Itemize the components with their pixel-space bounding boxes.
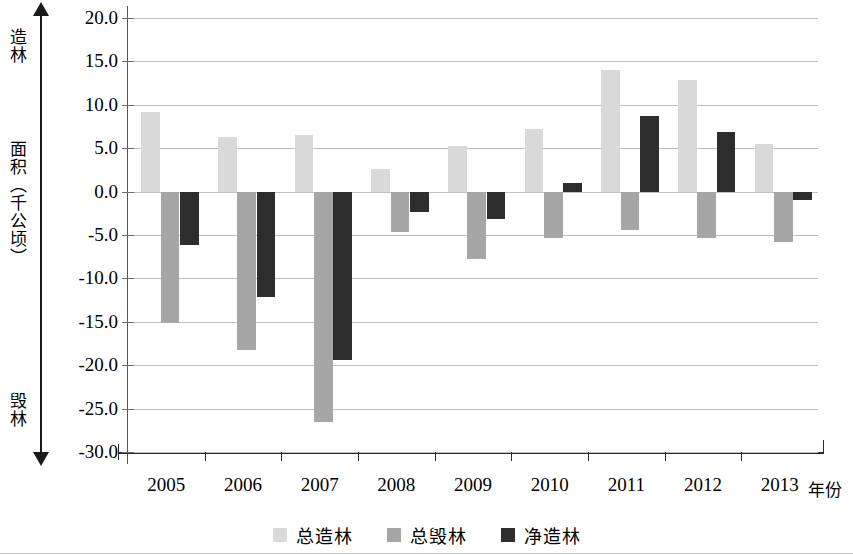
x-axis-tick-label: 2008: [358, 474, 435, 496]
y-axis-tick-label: 5.0: [56, 138, 118, 157]
bar-总毁林-2009: [467, 192, 486, 260]
bar-净造林-2006: [257, 192, 276, 297]
legend-item-总毁林[interactable]: 总毁林: [387, 522, 467, 548]
x-axis-tick-label: 2006: [205, 474, 282, 496]
x-axis-tick-mark: [205, 452, 206, 461]
gridline: [128, 452, 818, 453]
x-axis-tick-label: 2011: [588, 474, 665, 496]
bar-净造林-2013: [793, 192, 812, 201]
y-axis-tick-label: -25.0: [56, 399, 118, 418]
y-axis-tick-mark: [122, 409, 134, 410]
gridline: [128, 105, 818, 106]
legend-label: 净造林: [524, 522, 581, 548]
legend-item-净造林[interactable]: 净造林: [501, 522, 581, 548]
axis-direction-label-bottom: 毁林: [4, 392, 29, 428]
x-axis-tick-mark: [281, 452, 282, 461]
bar-总造林-2010: [525, 129, 544, 191]
y-axis-tick-mark: [122, 148, 134, 149]
bar-总造林-2009: [448, 146, 467, 192]
vertical-axis-annotation: 造林 面积（千公顷） 毁林: [0, 0, 58, 470]
x-axis-tick-label: 2013: [741, 474, 818, 496]
axis-direction-label-top: 造林: [4, 28, 29, 64]
y-axis-tick-mark: [122, 452, 134, 453]
bar-总毁林-2006: [237, 192, 256, 350]
x-axis-tick-label: 2010: [511, 474, 588, 496]
gridline: [128, 365, 818, 366]
bar-总毁林-2012: [697, 192, 716, 239]
bar-总毁林-2013: [774, 192, 793, 242]
x-axis-tick-mark: [588, 452, 589, 461]
bar-净造林-2010: [563, 183, 582, 192]
bar-净造林-2012: [717, 132, 736, 192]
bar-总造林-2005: [141, 112, 160, 192]
x-axis-unit-label: 年份: [808, 476, 842, 501]
gridline: [128, 61, 818, 62]
legend-item-总造林[interactable]: 总造林: [273, 522, 353, 548]
x-axis-origin-tick: [118, 444, 119, 460]
y-axis-tick-label: -30.0: [56, 442, 118, 461]
x-axis-tick-labels: 200520062007200820092010201120122013: [128, 474, 818, 504]
gridline: [128, 322, 818, 323]
double-arrow-shaft: [40, 14, 42, 454]
gridline: [128, 278, 818, 279]
y-axis-tick-mark: [122, 235, 134, 236]
bar-净造林-2009: [487, 192, 506, 220]
bar-总造林-2013: [755, 144, 774, 192]
bar-总毁林-2005: [161, 192, 180, 323]
y-axis-tick-label: -10.0: [56, 268, 118, 287]
bar-总毁林-2010: [544, 192, 563, 238]
y-axis-tick-mark: [122, 192, 134, 193]
legend-label: 总毁林: [410, 522, 467, 548]
y-axis-tick-mark: [122, 365, 134, 366]
x-axis-tick-label: 2007: [281, 474, 358, 496]
legend-swatch-icon: [273, 528, 287, 542]
x-axis-tick-label: 2005: [128, 474, 205, 496]
y-axis-tick-mark: [122, 322, 134, 323]
bar-总造林-2006: [218, 137, 237, 192]
x-axis-tick-label: 2009: [435, 474, 512, 496]
y-axis-tick-label: 10.0: [56, 95, 118, 114]
legend-label: 总造林: [296, 522, 353, 548]
bar-总造林-2012: [678, 80, 697, 192]
bar-总毁林-2011: [621, 192, 640, 230]
bar-总毁林-2007: [314, 192, 333, 422]
bar-净造林-2005: [180, 192, 199, 245]
legend-swatch-icon: [387, 528, 401, 542]
legend-swatch-icon: [501, 528, 515, 542]
chart-legend: 总造林总毁林净造林: [0, 520, 853, 550]
gridline: [128, 409, 818, 410]
arrow-down-icon: [33, 452, 49, 466]
y-axis-tick-mark: [122, 105, 134, 106]
chart-figure: 造林 面积（千公顷） 毁林 20.015.010.05.00.0-5.0-10.…: [0, 0, 853, 555]
bar-总造林-2007: [295, 135, 314, 191]
bar-总造林-2011: [601, 70, 620, 192]
y-axis-tick-mark: [122, 278, 134, 279]
y-axis-tick-label: 0.0: [56, 182, 118, 201]
y-axis-tick-label: -20.0: [56, 355, 118, 374]
bar-净造林-2007: [333, 192, 352, 360]
bar-净造林-2008: [410, 192, 429, 212]
x-axis-tick-mark: [511, 452, 512, 461]
plot-area: [128, 18, 818, 452]
y-axis-tick-mark: [122, 61, 134, 62]
y-axis-tick-mark: [122, 18, 134, 19]
y-axis-tick-label: -15.0: [56, 312, 118, 331]
arrow-up-icon: [33, 2, 49, 16]
bar-总造林-2008: [371, 169, 390, 192]
bottom-divider: [0, 553, 853, 554]
y-axis-title: 面积（千公顷）: [4, 140, 29, 266]
y-axis-tick-label: 20.0: [56, 8, 118, 27]
bar-总毁林-2008: [391, 192, 410, 232]
y-axis-tick-label: 15.0: [56, 51, 118, 70]
y-axis-tick-labels: 20.015.010.05.00.0-5.0-10.0-15.0-20.0-25…: [56, 0, 118, 470]
x-axis-end-cap: [823, 440, 824, 454]
x-axis-tick-label: 2012: [665, 474, 742, 496]
x-axis-tick-mark: [435, 452, 436, 461]
y-axis-tick-label: -5.0: [56, 225, 118, 244]
x-axis-tick-mark: [358, 452, 359, 461]
bar-净造林-2011: [640, 116, 659, 192]
x-axis-tick-mark: [665, 452, 666, 461]
gridline: [128, 18, 818, 19]
x-axis-tick-mark: [741, 452, 742, 461]
